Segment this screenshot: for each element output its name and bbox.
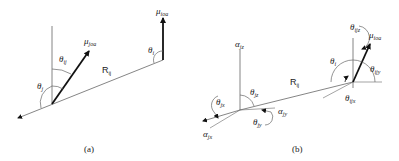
label-alpha-jy: αjy: [278, 107, 287, 117]
label-alpha-jz: αjz: [235, 40, 244, 50]
label-theta-ij: θij: [59, 55, 67, 65]
label-theta-jz: θjz: [250, 88, 258, 98]
label-mu-joa: μjoa: [84, 37, 96, 47]
mu-joa-vector: [52, 51, 89, 104]
theta-ij-arc: [52, 69, 71, 74]
panel-a: [18, 18, 163, 118]
label-theta-ijz: θijz: [350, 23, 360, 33]
label-theta-jx: θjx: [216, 98, 225, 108]
label-alpha-jx: αjx: [203, 130, 212, 140]
label-r-ij-b: Rij: [290, 78, 299, 88]
caption-b: (b): [292, 145, 303, 154]
theta-ijz-arc: [359, 26, 369, 49]
label-mu-ioa-b: μioa: [369, 31, 381, 41]
label-theta-ijx: θijx: [345, 94, 355, 104]
label-theta-ijy: θijy: [370, 65, 380, 75]
caption-a: (a): [84, 145, 94, 154]
label-mu-ioa: μioa: [156, 7, 168, 17]
alpha-jx-axis: [203, 110, 240, 121]
label-theta-j: θj: [37, 82, 43, 92]
theta-jy-arc: [262, 110, 273, 125]
label-r-ij: Rij: [102, 66, 111, 76]
label-theta-jy: θjy: [253, 118, 262, 128]
mu-ioa-vector-b: [353, 44, 370, 82]
theta-i-arc: [153, 51, 163, 63]
label-theta-i: θi: [148, 46, 154, 56]
diagram-canvas: [0, 0, 399, 161]
theta-ijx-arc: [345, 76, 348, 82]
label-theta-i-b: θi: [330, 57, 336, 67]
